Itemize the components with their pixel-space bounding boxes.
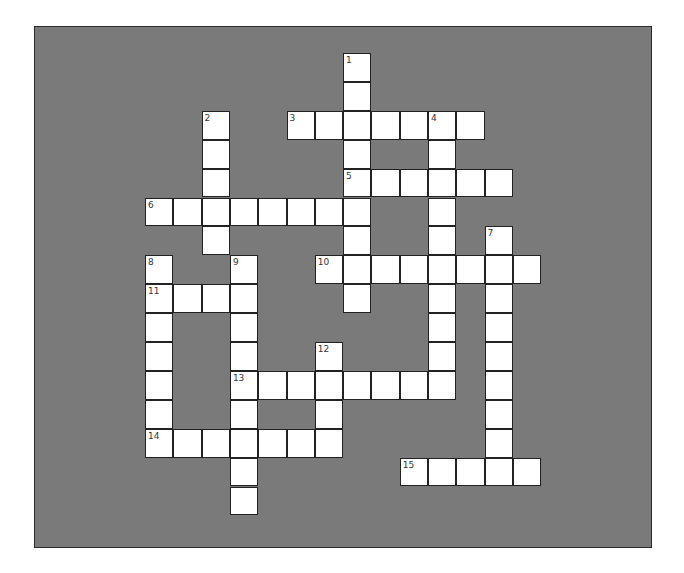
crossword-cell[interactable]: 9 <box>230 255 258 284</box>
crossword-cell[interactable] <box>371 255 399 284</box>
crossword-cell[interactable]: 5 <box>343 169 371 198</box>
crossword-cell[interactable]: 6 <box>145 198 173 227</box>
crossword-cell[interactable] <box>202 140 230 169</box>
crossword-cell[interactable] <box>513 458 541 487</box>
crossword-cell[interactable] <box>202 226 230 255</box>
crossword-cell[interactable] <box>456 458 484 487</box>
crossword-cell[interactable] <box>145 371 173 400</box>
crossword-cell[interactable] <box>315 198 343 227</box>
crossword-cell[interactable] <box>485 313 513 342</box>
crossword-cell[interactable]: 2 <box>202 111 230 140</box>
crossword-cell[interactable] <box>428 198 456 227</box>
crossword-cell[interactable] <box>315 400 343 429</box>
crossword-cell[interactable] <box>485 342 513 371</box>
crossword-cell[interactable] <box>400 371 428 400</box>
crossword-cell[interactable] <box>456 255 484 284</box>
crossword-cell[interactable] <box>485 284 513 313</box>
clue-number: 15 <box>403 460 414 470</box>
crossword-cell[interactable] <box>173 429 201 458</box>
crossword-cell[interactable] <box>173 284 201 313</box>
crossword-cell[interactable] <box>343 371 371 400</box>
crossword-cell[interactable] <box>343 140 371 169</box>
crossword-cell[interactable] <box>230 458 258 487</box>
crossword-cell[interactable] <box>287 198 315 227</box>
crossword-cell[interactable] <box>230 313 258 342</box>
crossword-cell[interactable]: 11 <box>145 284 173 313</box>
crossword-cell[interactable] <box>343 198 371 227</box>
crossword-cell[interactable]: 4 <box>428 111 456 140</box>
crossword-cell[interactable]: 1 <box>343 53 371 82</box>
crossword-cell[interactable] <box>145 342 173 371</box>
crossword-cell[interactable] <box>428 226 456 255</box>
crossword-cell[interactable]: 13 <box>230 371 258 400</box>
clue-number: 5 <box>346 171 352 181</box>
crossword-cell[interactable]: 12 <box>315 342 343 371</box>
crossword-cell[interactable] <box>230 429 258 458</box>
crossword-cell[interactable] <box>315 371 343 400</box>
crossword-cell[interactable] <box>428 458 456 487</box>
clue-number: 13 <box>233 373 244 383</box>
crossword-cell[interactable] <box>230 284 258 313</box>
crossword-cell[interactable] <box>428 342 456 371</box>
clue-number: 10 <box>318 257 329 267</box>
crossword-cell[interactable] <box>400 111 428 140</box>
crossword-cell[interactable]: 7 <box>485 226 513 255</box>
crossword-cell[interactable] <box>343 255 371 284</box>
crossword-cell[interactable] <box>485 371 513 400</box>
crossword-cell[interactable] <box>258 429 286 458</box>
crossword-cell[interactable] <box>371 169 399 198</box>
crossword-cell[interactable]: 8 <box>145 255 173 284</box>
crossword-cell[interactable] <box>315 429 343 458</box>
crossword-cell[interactable] <box>485 429 513 458</box>
crossword-cell[interactable] <box>371 371 399 400</box>
crossword-cell[interactable] <box>343 82 371 111</box>
crossword-cell[interactable] <box>428 371 456 400</box>
clue-number: 2 <box>205 113 211 123</box>
crossword-cell[interactable] <box>513 255 541 284</box>
crossword-cell[interactable] <box>258 371 286 400</box>
crossword-cell[interactable] <box>202 284 230 313</box>
clue-number: 7 <box>488 228 494 238</box>
crossword-cell[interactable] <box>230 487 258 516</box>
crossword-cell[interactable] <box>343 284 371 313</box>
crossword-cell[interactable] <box>145 400 173 429</box>
crossword-cell[interactable] <box>287 371 315 400</box>
crossword-cell[interactable] <box>287 429 315 458</box>
crossword-cell[interactable] <box>428 255 456 284</box>
crossword-cell[interactable] <box>456 111 484 140</box>
crossword-cell[interactable]: 10 <box>315 255 343 284</box>
crossword-cell[interactable] <box>428 284 456 313</box>
crossword-cell[interactable]: 15 <box>400 458 428 487</box>
crossword-cell[interactable] <box>428 169 456 198</box>
crossword-cell[interactable] <box>456 169 484 198</box>
crossword-cell[interactable] <box>371 111 399 140</box>
crossword-cell[interactable] <box>428 140 456 169</box>
crossword-cell[interactable] <box>485 169 513 198</box>
clue-number: 6 <box>148 200 154 210</box>
crossword-cell[interactable] <box>315 111 343 140</box>
crossword-cell[interactable] <box>485 458 513 487</box>
crossword-cell[interactable] <box>202 429 230 458</box>
crossword-cell[interactable] <box>145 313 173 342</box>
crossword-cell[interactable] <box>173 198 201 227</box>
crossword-cell[interactable] <box>400 169 428 198</box>
crossword-cell[interactable]: 3 <box>287 111 315 140</box>
crossword-cell[interactable] <box>202 198 230 227</box>
clue-number: 11 <box>148 286 159 296</box>
crossword-cell[interactable] <box>230 400 258 429</box>
crossword-cell[interactable] <box>485 255 513 284</box>
crossword-cell[interactable]: 14 <box>145 429 173 458</box>
crossword-cell[interactable] <box>428 313 456 342</box>
clue-number: 12 <box>318 344 329 354</box>
clue-number: 8 <box>148 257 154 267</box>
crossword-cell[interactable] <box>202 169 230 198</box>
crossword-cell[interactable] <box>343 226 371 255</box>
crossword-cell[interactable] <box>230 198 258 227</box>
clue-number: 3 <box>290 113 296 123</box>
crossword-cell[interactable] <box>343 111 371 140</box>
crossword-cell[interactable] <box>230 342 258 371</box>
crossword-cell[interactable] <box>258 198 286 227</box>
crossword-cell[interactable] <box>485 400 513 429</box>
clue-number: 14 <box>148 431 159 441</box>
crossword-cell[interactable] <box>400 255 428 284</box>
